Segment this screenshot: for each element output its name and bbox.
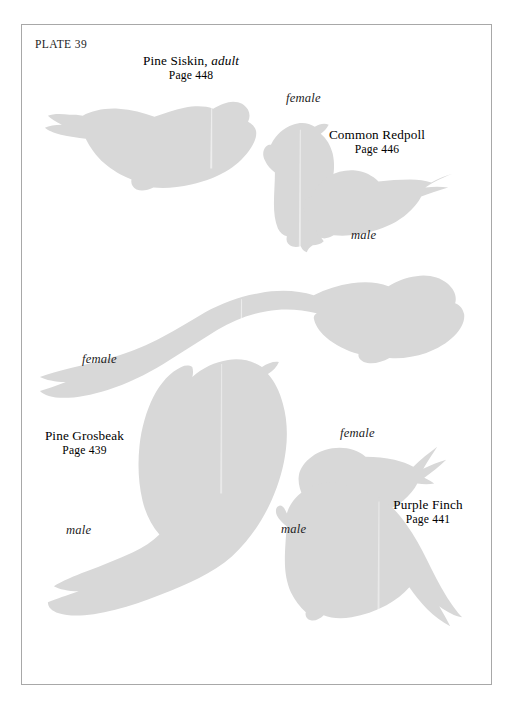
species-name-pine-siskin-age: adult [211, 53, 239, 68]
sex-label-grosbeak-female: female [82, 352, 117, 366]
species-name-common-redpoll: Common Redpoll [277, 127, 477, 143]
caption-pine-siskin: Pine Siskin, adult Page 448 [116, 53, 266, 82]
pine-siskin-adult-silhouette [45, 102, 256, 191]
caption-pine-grosbeak: Pine Grosbeak Page 439 [27, 428, 142, 457]
pine-grosbeak-male-silhouette [48, 359, 287, 615]
plate-identifier: PLATE 39 [35, 38, 87, 51]
species-name-pine-grosbeak: Pine Grosbeak [27, 428, 142, 444]
sex-label-finch-male: male [281, 522, 306, 536]
species-name-pine-siskin: Pine Siskin, adult [116, 53, 266, 69]
caption-purple-finch: Purple Finch Page 441 [373, 497, 483, 526]
common-redpoll-male-silhouette [304, 170, 454, 238]
page-ref-purple-finch: Page 441 [373, 513, 483, 526]
page-ref-common-redpoll: Page 446 [277, 143, 477, 156]
species-name-pine-siskin-text: Pine Siskin, [143, 53, 208, 68]
page-ref-pine-grosbeak: Page 439 [27, 444, 142, 457]
sex-label-finch-female: female [340, 426, 375, 440]
caption-common-redpoll: Common Redpoll Page 446 [277, 127, 477, 156]
page-ref-pine-siskin: Page 448 [116, 69, 266, 82]
species-name-purple-finch: Purple Finch [373, 497, 483, 513]
sex-label-redpoll-female: female [286, 91, 321, 105]
sex-label-redpoll-male: male [351, 228, 376, 242]
sex-label-grosbeak-male: male [66, 523, 91, 537]
plate-page: PLATE 39 Pine Siskin, adult Page 448 Com… [21, 24, 492, 685]
